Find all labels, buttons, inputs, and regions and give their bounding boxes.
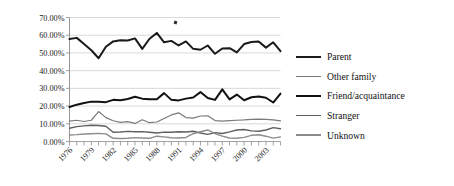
y-tick-label: 40.00%	[39, 67, 64, 76]
y-tick-label: 50.00%	[39, 49, 64, 58]
legend-label-parent: Parent	[327, 51, 352, 62]
legend-swatch-stranger	[296, 115, 321, 117]
x-tick-label: 1994	[187, 146, 205, 164]
x-ticks	[66, 18, 281, 146]
y-tick-label: 0.00%	[43, 138, 64, 147]
chart-legend: Parent Other family Friend/acquaintance …	[296, 47, 454, 145]
line-chart: 0.00%10.00%20.00%30.00%40.00%50.00%60.00…	[0, 0, 454, 186]
x-tick-label: 1976	[56, 146, 74, 164]
gridlines	[70, 18, 281, 142]
y-tick-label: 10.00%	[39, 120, 64, 129]
y-tick-label: 20.00%	[39, 102, 64, 111]
legend-label-friend-acquaintance: Friend/acquaintance	[327, 90, 405, 101]
legend-label-other-family: Other family	[327, 71, 376, 82]
data-series	[70, 33, 281, 139]
legend-item-unknown: Unknown	[296, 125, 454, 145]
y-tick-label: 60.00%	[39, 31, 64, 40]
legend-swatch-unknown	[296, 134, 321, 136]
x-tick-label: 1991	[166, 146, 184, 164]
legend-label-unknown: Unknown	[327, 130, 365, 141]
y-tick-labels: 0.00%10.00%20.00%30.00%40.00%50.00%60.00…	[39, 14, 64, 147]
chart-svg: 0.00%10.00%20.00%30.00%40.00%50.00%60.00…	[0, 0, 290, 186]
legend-item-stranger: Stranger	[296, 106, 454, 126]
x-tick-label: 1997	[209, 146, 227, 164]
legend-swatch-friend-acquaintance	[296, 95, 321, 97]
x-tick-label: 1985	[122, 146, 140, 164]
series-line	[70, 130, 281, 139]
x-tick-label: 1982	[100, 146, 118, 164]
y-tick-label: 30.00%	[39, 84, 64, 93]
x-tick-label: 2000	[231, 146, 249, 164]
legend-item-friend-acquaintance: Friend/acquaintance	[296, 86, 454, 106]
plot-area: 0.00%10.00%20.00%30.00%40.00%50.00%60.00…	[0, 0, 290, 186]
legend-item-other-family: Other family	[296, 67, 454, 87]
x-tick-label: 2003	[253, 146, 271, 164]
legend-swatch-parent	[296, 56, 321, 58]
legend-swatch-other-family	[296, 76, 321, 78]
legend-label-stranger: Stranger	[327, 110, 360, 121]
series-line	[70, 89, 281, 107]
x-tick-label: 1979	[78, 146, 96, 164]
x-tick-labels: 1976197919821985198819911994199720002003	[56, 146, 270, 164]
series-line	[70, 33, 281, 58]
x-tick-label: 1988	[144, 146, 162, 164]
series-line	[70, 112, 281, 124]
legend-item-parent: Parent	[296, 47, 454, 67]
y-tick-label: 70.00%	[39, 14, 64, 23]
